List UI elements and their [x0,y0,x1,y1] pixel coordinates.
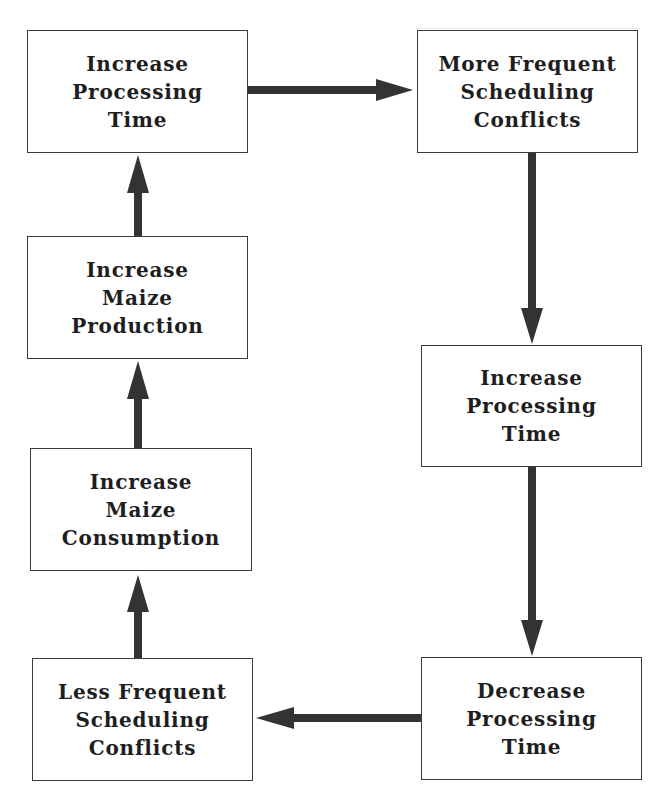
node-line: Processing [466,392,596,420]
node-line: Increase [86,256,189,284]
node-line: Conflicts [474,106,581,134]
arrow-up-icon [127,575,149,658]
node-line: Time [108,106,168,134]
node-line: Time [502,733,562,761]
node-more-frequent-scheduling-conflicts: More Frequent Scheduling Conflicts [417,30,638,153]
node-increase-maize-production: Increase Maize Production [27,236,248,359]
node-increase-maize-consumption: Increase Maize Consumption [30,448,252,571]
node-line: Less Frequent [58,678,227,706]
node-line: Maize [106,496,177,524]
node-line: Scheduling [75,706,209,734]
node-line: Processing [466,705,596,733]
node-increase-processing-time-top: Increase Processing Time [27,30,248,153]
node-line: Consumption [62,524,220,552]
arrow-left-icon [256,707,421,729]
node-line: Scheduling [460,78,594,106]
arrow-up-icon [127,361,149,448]
arrow-up-icon [127,155,149,236]
arrow-down-icon [521,152,543,344]
arrow-down-icon [521,466,543,656]
node-line: Processing [72,78,202,106]
node-decrease-processing-time: Decrease Processing Time [421,657,642,780]
node-line: More Frequent [438,50,616,78]
arrow-right-icon [248,79,413,101]
node-line: Increase [86,50,189,78]
node-line: Conflicts [89,734,196,762]
node-line: Increase [90,468,193,496]
node-less-frequent-scheduling-conflicts: Less Frequent Scheduling Conflicts [32,658,253,781]
node-line: Time [502,420,562,448]
node-line: Maize [102,284,173,312]
node-line: Decrease [477,677,586,705]
node-increase-processing-time-right: Increase Processing Time [421,345,642,467]
node-line: Production [71,312,203,340]
node-line: Increase [480,364,583,392]
